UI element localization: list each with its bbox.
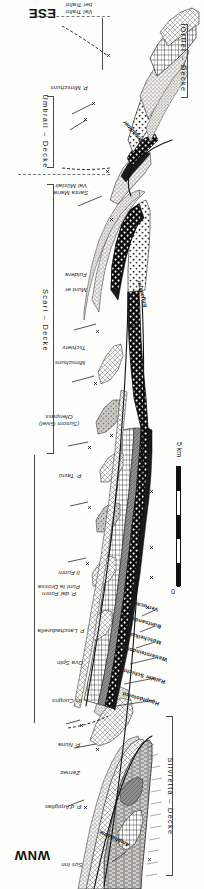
- scale-label-max: 5 km: [176, 435, 183, 465]
- locality-punt-la-drossa: P. dal Fuorn Punt la Drossa: [24, 584, 94, 597]
- locality-p-tavru: P. Tavrü: [44, 473, 96, 480]
- scale-bar-segment: [177, 515, 180, 539]
- locality-sus-inn: Sus Inn: [52, 862, 92, 869]
- locality-ofenpass: (Susom Givel) Ofenpass: [24, 414, 94, 427]
- locality-column-rule-upper: [102, 18, 103, 70]
- locality-laschadurella: P. Laschadurella: [22, 628, 100, 635]
- geological-cross-section-figure: ESE WNW Ortler – Decke Umbrail – Decke S…: [0, 0, 204, 889]
- locality-ils-cuogns: Ils Cuogns: [38, 698, 96, 705]
- locality-ofenpass-line1: Ofenpass: [24, 414, 94, 421]
- locality-p-nuna: P. Nuna: [44, 742, 94, 749]
- scale-label-zero: 0: [166, 588, 180, 595]
- locality-trafoi: Val Trafoi bei Trafoi: [52, 2, 106, 15]
- nappe-label-umbrail: Umbrail – Decke: [41, 88, 50, 176]
- bracket-umbrail: [53, 96, 54, 168]
- bracket-silvretta-tick-bottom: [166, 875, 173, 876]
- locality-punt-la-drossa-line2: P. dal Fuorn: [24, 591, 94, 598]
- bracket-silvretta-tick-top: [166, 716, 173, 717]
- locality-zernez: Zernez: [46, 770, 94, 777]
- azimuth-label-wnw: WNW: [6, 848, 58, 863]
- locality-val-muestair: Santa Maria Val Müstair: [40, 183, 102, 196]
- locality-tschierv: Tschierv: [50, 345, 98, 352]
- locality-val-muestair-line1: Val Müstair: [40, 183, 102, 190]
- bracket-scarl-tick-bottom: [47, 453, 54, 454]
- locality-trafoi-line2: Val Trafoi: [52, 9, 106, 16]
- nappe-label-silvretta: Silvretta – Decke: [166, 737, 175, 857]
- locality-ova-spin: Ova Spin: [44, 660, 96, 667]
- locality-arpiglias: P. d'Arpiglias: [28, 804, 98, 811]
- nappe-label-scarl: Scarl – Decke: [41, 279, 50, 363]
- nappe-label-ortler: Ortler – Decke: [179, 16, 188, 104]
- locality-punt-la-drossa-line1: Punt la Drossa: [24, 584, 94, 591]
- locality-trafoi-line1: bei Trafoi: [52, 2, 106, 9]
- scale-bar-segment: [177, 563, 180, 587]
- locality-val-muestair-line2: Santa Maria: [40, 190, 102, 197]
- locality-minschuns: Minschuns: [42, 360, 98, 367]
- locality-ofenpass-line2: (Susom Givel): [24, 421, 94, 428]
- locality-munter: Munt er: [52, 287, 100, 294]
- locality-il-fuorn: Il Fuorn: [44, 570, 94, 577]
- scale-bar-segment: [177, 467, 180, 491]
- locality-p-minschuns: P. Minschuns: [36, 85, 102, 92]
- locality-fuldera: Fuldera: [52, 272, 100, 279]
- domain-divider-umbrail-scarl: [18, 174, 110, 175]
- scale-bar: [176, 466, 181, 586]
